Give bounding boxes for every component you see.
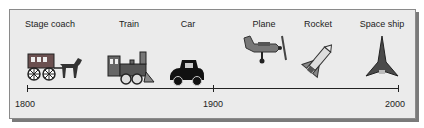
- label-plane: Plane: [252, 19, 275, 29]
- year-1800: 1800: [15, 99, 35, 109]
- label-stage-coach: Stage coach: [25, 19, 75, 29]
- car-icon: [168, 58, 208, 88]
- tick-2000: [398, 85, 399, 92]
- year-2000: 2000: [385, 99, 405, 109]
- timeline-axis: [27, 88, 399, 89]
- tick-1900: [213, 85, 214, 92]
- rocket-icon: [298, 40, 338, 82]
- tick-1800: [27, 85, 28, 92]
- spaceship-icon: [362, 36, 402, 84]
- steam-train-icon: [106, 50, 162, 90]
- label-space-ship: Space ship: [360, 19, 405, 29]
- stagecoach-icon: [26, 50, 88, 90]
- plane-icon: [242, 34, 290, 70]
- label-train: Train: [119, 19, 139, 29]
- label-rocket: Rocket: [304, 19, 332, 29]
- timeline-panel: Stage coach Train Car Plane Rocket Space…: [9, 9, 416, 119]
- label-car: Car: [181, 19, 196, 29]
- year-1900: 1900: [203, 99, 223, 109]
